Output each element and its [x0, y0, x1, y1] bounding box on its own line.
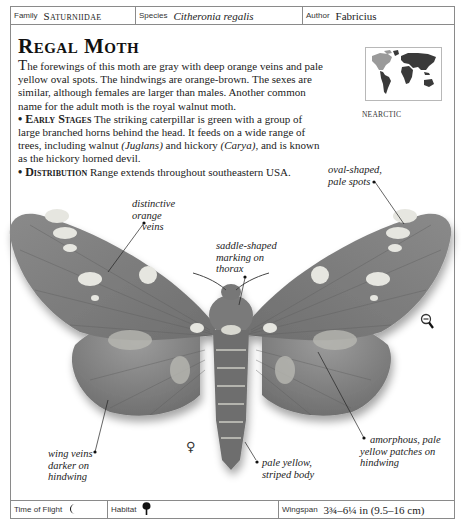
annotation-line: darker on	[48, 460, 93, 472]
footer-bar: Time of Flight Habitat Wingspan 3¾–6¼ in…	[10, 500, 455, 519]
annotation-line: hindwing	[48, 471, 93, 483]
habitat-label: Habitat	[111, 505, 136, 514]
annotation-line: veins	[132, 221, 175, 233]
time-of-flight-cell: Time of Flight	[11, 501, 108, 518]
early-stages-heading: • Early Stages	[18, 112, 91, 126]
annotation-line: pale yellow,	[262, 457, 314, 469]
juglans: (Juglans)	[121, 139, 163, 151]
annotation-line: orange	[132, 210, 175, 222]
annotation-line: oval-shaped,	[328, 164, 382, 176]
annotation-line: striped body	[262, 469, 314, 481]
annotation-amorphous-patches: amorphous, pale yellow patches on hindwi…	[360, 434, 441, 469]
annotation-orange-veins: distinctive orange veins	[132, 198, 175, 233]
annotation-line: wing veins	[48, 448, 93, 460]
annotation-striped-body: pale yellow, striped body	[262, 457, 314, 480]
zoom-out-icon[interactable]	[420, 313, 436, 333]
annotation-oval-spots: oval-shaped, pale spots	[328, 164, 382, 187]
habitat-cell: Habitat	[108, 501, 279, 518]
family-label: Family	[14, 11, 38, 20]
author-value: Fabricius	[336, 10, 377, 22]
wingspan-label: Wingspan	[282, 505, 318, 514]
left-forewing	[10, 214, 215, 341]
carya: (Carya)	[221, 139, 256, 151]
annotation-line: saddle-shaped	[216, 240, 277, 252]
tree-icon	[142, 501, 151, 518]
early-stages-paragraph: • Early Stages The striking caterpillar …	[18, 113, 323, 166]
distribution-text: Range extends throughout southeastern US…	[87, 166, 290, 178]
moon-icon	[68, 501, 77, 518]
author-cell: Author Fabricius	[303, 7, 454, 24]
species-value: Citheronia regalis	[173, 10, 253, 22]
dropcap: T	[18, 57, 27, 73]
annotation-wing-veins: wing veins darker on hindwing	[48, 448, 93, 483]
annotation-line: distinctive	[132, 198, 175, 210]
female-symbol-icon: ♀	[186, 439, 196, 454]
author-label: Author	[306, 11, 330, 20]
time-of-flight-label: Time of Flight	[14, 505, 62, 514]
region-caption: NEARCTIC	[362, 110, 401, 119]
wingspan-cell: Wingspan 3¾–6¼ in (9.5–16 cm)	[279, 501, 454, 518]
intro-text: he forewings of this moth are gray with …	[18, 60, 323, 112]
world-map	[365, 47, 442, 101]
world-map-icon	[366, 48, 441, 100]
annotation-line: marking on	[216, 252, 277, 264]
species-cell: Species Citheronia regalis	[136, 7, 303, 24]
header-bar: Family Saturniidae Species Citheronia re…	[10, 6, 455, 25]
annotation-line: pale spots	[328, 176, 382, 188]
annotation-line: yellow patches on	[360, 446, 441, 458]
distribution-heading: • Distribution	[18, 165, 87, 179]
family-value: Saturniidae	[44, 10, 102, 22]
wingspan-value: 3¾–6¼ in (9.5–16 cm)	[324, 504, 425, 516]
intro-paragraph: The forewings of this moth are gray with…	[18, 59, 323, 113]
annotation-line: thorax	[216, 263, 277, 275]
family-cell: Family Saturniidae	[11, 7, 136, 24]
annotation-line: hindwing	[360, 457, 441, 469]
annotation-line: amorphous, pale	[360, 434, 441, 446]
annotation-saddle-marking: saddle-shaped marking on thorax	[216, 240, 277, 275]
distribution-paragraph: • Distribution Range extends throughout …	[18, 166, 323, 179]
species-label: Species	[139, 11, 167, 20]
description: The forewings of this moth are gray with…	[18, 59, 323, 179]
early-stages-text-2: and hickory	[163, 139, 221, 151]
page-title: Regal Moth	[18, 34, 139, 59]
